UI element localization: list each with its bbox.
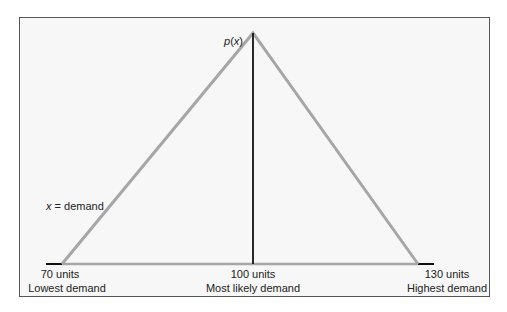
point-value: 130 units xyxy=(404,267,490,281)
point-value: 100 units xyxy=(203,267,303,281)
point-caption: Most likely demand xyxy=(203,281,303,295)
point-low: 70 units Lowest demand xyxy=(27,267,107,295)
point-caption: Lowest demand xyxy=(27,281,107,295)
triangular-distribution-graphic xyxy=(0,0,507,312)
axis-label: x = demand xyxy=(46,199,104,213)
peak-label: p(x) xyxy=(224,34,243,48)
point-caption: Highest demand xyxy=(404,281,490,295)
point-value: 70 units xyxy=(13,267,107,281)
triangle-outline xyxy=(62,33,418,264)
point-mode: 100 units Most likely demand xyxy=(203,267,303,295)
point-high: 130 units Highest demand xyxy=(404,267,490,295)
